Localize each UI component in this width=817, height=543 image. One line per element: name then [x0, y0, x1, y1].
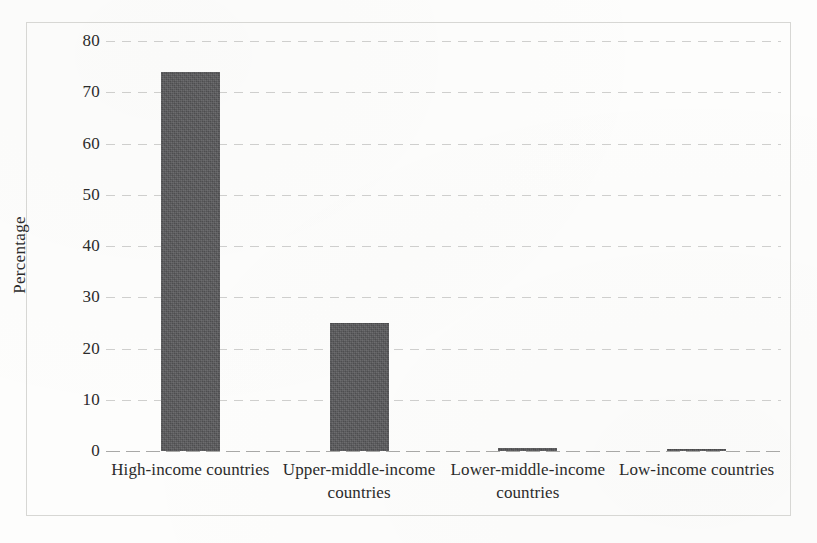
bar-1 — [330, 323, 389, 451]
y-tick-label-60: 60 — [48, 134, 100, 154]
y-tick-label-80: 80 — [48, 31, 100, 51]
gridline-0 — [106, 451, 781, 452]
gridline-80 — [106, 41, 781, 42]
plot-area — [106, 41, 781, 451]
x-axis-label-2: Lower-middle-income countries — [444, 458, 613, 516]
x-axis-label-1: Upper-middle-income countries — [275, 458, 444, 516]
y-axis-title: Percentage — [10, 216, 30, 294]
bar-2 — [498, 448, 557, 451]
y-tick-label-20: 20 — [48, 339, 100, 359]
y-axis-tick-labels: 01020304050607080 — [40, 41, 100, 451]
y-tick-label-70: 70 — [48, 82, 100, 102]
bar-0 — [161, 72, 220, 451]
y-tick-label-0: 0 — [48, 441, 100, 461]
bar-3 — [667, 449, 726, 452]
y-tick-label-30: 30 — [48, 287, 100, 307]
bar-chart-figure: Percentage 01020304050607080 High-income… — [0, 0, 817, 543]
x-axis-label-3: Low-income countries — [612, 458, 781, 516]
y-tick-label-10: 10 — [48, 390, 100, 410]
x-axis-category-labels: High-income countriesUpper-middle-income… — [106, 458, 781, 516]
x-axis-label-0: High-income countries — [106, 458, 275, 516]
y-tick-label-50: 50 — [48, 185, 100, 205]
y-tick-label-40: 40 — [48, 236, 100, 256]
